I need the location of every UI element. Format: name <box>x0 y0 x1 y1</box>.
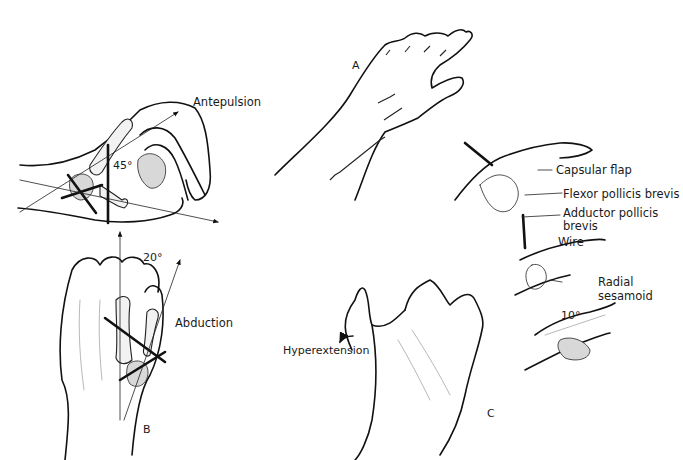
medical-illustration: Antepulsion 45° 20° Abduction B A C Hype… <box>0 0 683 460</box>
hand-palm-hyperextension <box>340 280 483 460</box>
label-wire: Wire <box>558 236 584 248</box>
label-panel-a: A <box>352 60 360 72</box>
label-capsular-flap: Capsular flap <box>556 164 632 176</box>
label-angle-10: 10° <box>561 310 581 322</box>
label-adductor-pollicis-2: brevis <box>563 220 598 232</box>
label-radial-sesamoid-1: Radial <box>598 276 634 288</box>
label-flexor-pollicis-brevis: Flexor pollicis brevis <box>563 188 679 200</box>
label-angle-45: 45° <box>113 160 133 172</box>
label-panel-c: C <box>487 408 495 420</box>
label-radial-sesamoid-2: sesamoid <box>598 290 653 302</box>
label-antepulsion: Antepulsion <box>193 96 261 108</box>
hand-dorsal-abduction <box>60 232 180 460</box>
label-abduction: Abduction <box>175 317 233 329</box>
hand-dorsal-sutured <box>275 30 472 200</box>
label-hyperextension: Hyperextension <box>283 345 369 357</box>
label-angle-20: 20° <box>143 252 163 264</box>
label-panel-b: B <box>143 424 151 436</box>
label-adductor-pollicis-1: Adductor pollicis <box>563 207 658 219</box>
